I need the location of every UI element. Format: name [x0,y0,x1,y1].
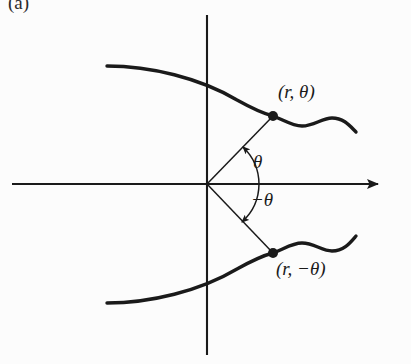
polar-coordinate-figure: (a) (r, θ) (r, −θ) θ −θ [0,0,411,364]
point-lower-label: (r, −θ) [276,259,326,278]
point-lower-dot [268,248,278,258]
angle-negative-label: −θ [251,190,273,209]
point-upper-dot [268,111,278,121]
point-upper-label: (r, θ) [278,82,315,101]
angle-positive-label: θ [253,152,262,171]
figure-canvas [0,0,411,364]
radial-line-positive [207,116,273,184]
curve-upper [107,66,356,132]
